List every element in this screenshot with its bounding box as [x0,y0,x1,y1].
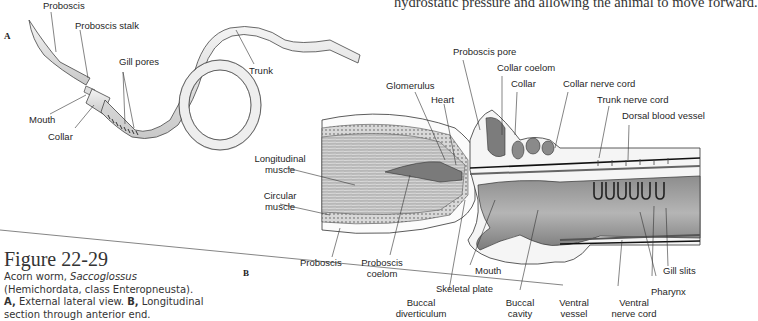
caption-panel-a: A, [4,296,16,307]
label-pharynx: Pharynx [651,287,686,298]
label-circular-muscle: Circular muscle [254,191,306,212]
label-ventral-nerve-cord: Ventral nerve cord [604,298,664,319]
label-trunk-nerve-cord: Trunk nerve cord [597,95,668,106]
figure-caption: Acorn worm, Saccoglossus (Hemichordata, … [4,271,204,321]
label-ventral-vessel: Ventral vessel [552,298,596,319]
label-line: diverticulum [396,308,447,319]
label-proboscis-a: Proboscis [43,1,85,12]
figure-title: Figure 22-29 [4,248,108,271]
label-collar-a: Collar [48,132,73,143]
label-buccal-diverticulum: Buccal diverticulum [388,298,454,319]
label-trunk: Trunk [249,66,273,77]
label-line: Proboscis [361,257,403,268]
label-mouth-b: Mouth [475,266,501,277]
label-line: muscle [265,201,295,212]
label-mouth-a: Mouth [29,115,55,126]
label-line: coelom [367,268,398,279]
caption-genus: Saccoglossus [70,271,137,282]
label-proboscis-coelom: Proboscis coelom [354,258,410,279]
label-line: Buccal [407,297,436,308]
label-line: Circular [264,190,297,201]
label-buccal-cavity: Buccal cavity [498,298,542,319]
label-dorsal-blood-vessel: Dorsal blood vessel [622,111,705,122]
label-line: muscle [265,164,295,175]
label-skeletal-plate: Skeletal plate [436,284,493,295]
label-collar-coelom: Collar coelom [497,63,555,74]
label-heart: Heart [431,95,454,106]
label-glomerulus: Glomerulus [386,81,435,92]
caption-text: External lateral view. [16,296,128,307]
label-line: Ventral [619,297,649,308]
caption-text: Acorn worm, [4,271,70,282]
panel-a-letter: A [4,31,11,41]
label-collar-nerve-cord: Collar nerve cord [563,79,635,90]
label-line: cavity [508,308,532,319]
label-collar-b: Collar [511,79,536,90]
label-longitudinal-muscle: Longitudinal muscle [244,154,316,175]
label-gill-pores: Gill pores [119,57,159,68]
label-proboscis-b: Proboscis [300,258,342,269]
label-proboscis-pore: Proboscis pore [453,47,516,58]
worm-external-drawing [29,12,360,150]
label-proboscis-stalk: Proboscis stalk [75,21,139,32]
caption-text: (Hemichordata, class Enteropneusta). [4,284,193,295]
caption-panel-b: B, [127,296,138,307]
label-line: Buccal [506,297,535,308]
label-line: vessel [561,308,588,319]
label-gill-slits: Gill slits [663,266,696,277]
panel-b-letter: B [243,268,249,278]
label-line: Longitudinal [254,153,305,164]
label-line: Ventral [559,297,589,308]
label-line: nerve cord [612,308,657,319]
